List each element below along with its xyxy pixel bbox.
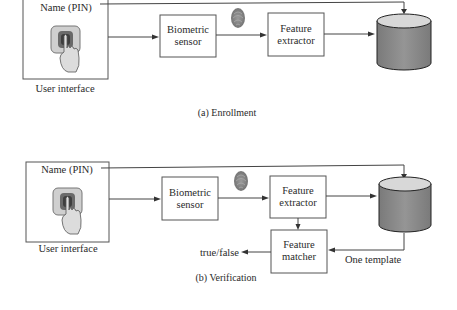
- verification-diagram: Name (PIN) User interface Biometric sens…: [26, 162, 431, 284]
- true-false-output-label: true/false: [200, 247, 239, 258]
- feature-extractor-box: Feature extractor: [268, 13, 324, 56]
- svg-text:matcher: matcher: [282, 251, 316, 262]
- svg-text:Feature: Feature: [280, 23, 312, 34]
- svg-text:Biometric: Biometric: [167, 24, 209, 35]
- user-interface-label: User interface: [35, 83, 95, 94]
- fingerprint-icon: [234, 171, 248, 191]
- database-cylinder-icon: [377, 14, 431, 70]
- verification-caption: (b) Verification: [195, 272, 256, 284]
- feature-extractor-box: Feature extractor: [270, 176, 326, 218]
- user-interface-box: Name (PIN) User interface: [26, 162, 109, 254]
- biometric-sensor-box: Biometric sensor: [162, 177, 218, 220]
- name-pin-label: Name (PIN): [41, 164, 93, 176]
- biometric-sensor-box: Biometric sensor: [160, 15, 216, 57]
- fingerprint-icon: [231, 8, 245, 28]
- enrollment-diagram: Name (PIN) User interface Biometric sens…: [23, 0, 431, 119]
- user-interface-box: Name (PIN) User interface: [23, 0, 108, 94]
- svg-text:Biometric: Biometric: [169, 187, 211, 198]
- feature-matcher-box: Feature matcher: [271, 230, 327, 273]
- user-interface-label: User interface: [38, 243, 98, 254]
- svg-text:sensor: sensor: [175, 36, 202, 47]
- database-cylinder-icon: [379, 177, 431, 232]
- svg-text:extractor: extractor: [279, 197, 317, 208]
- name-pin-label: Name (PIN): [40, 2, 92, 14]
- one-template-label: One template: [345, 254, 402, 265]
- svg-text:Feature: Feature: [282, 185, 314, 196]
- svg-text:sensor: sensor: [177, 199, 204, 210]
- svg-text:extractor: extractor: [277, 35, 315, 46]
- enrollment-caption: (a) Enrollment: [198, 107, 257, 119]
- svg-text:Feature: Feature: [283, 239, 315, 250]
